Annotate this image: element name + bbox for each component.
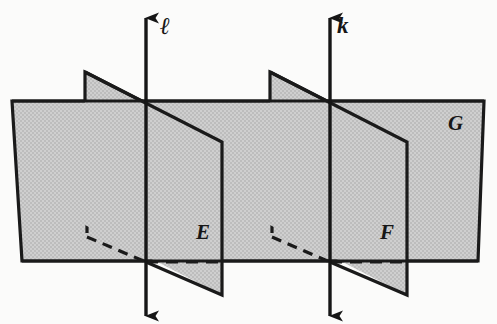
plane-f-label: F — [380, 222, 394, 243]
plane-g-label: G — [448, 113, 463, 134]
plane-g-shape — [12, 101, 484, 261]
plane-e-label: E — [196, 222, 210, 243]
diagram-canvas — [0, 0, 497, 324]
line-k-label: k — [337, 14, 349, 37]
geometry-diagram: ℓ k E F G — [0, 0, 497, 324]
line-l-label: ℓ — [160, 14, 170, 38]
